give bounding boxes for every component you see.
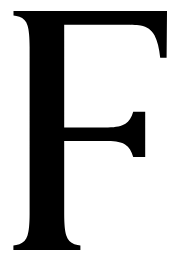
image-canvas: F Capital letter F in a serif typeface bbox=[0, 0, 173, 258]
letter-f-glyph bbox=[0, 0, 173, 258]
